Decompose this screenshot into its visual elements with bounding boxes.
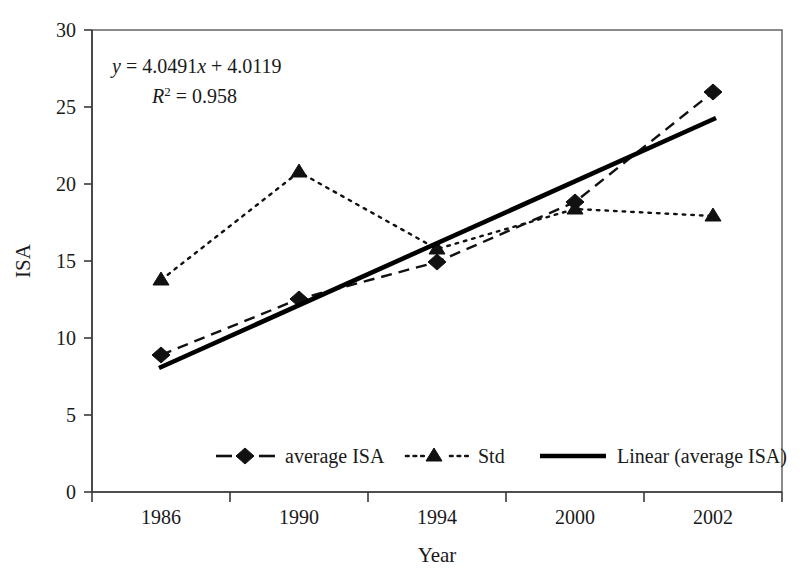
y-axis-title: ISA — [11, 243, 35, 278]
x-tick-label-1990: 1990 — [279, 506, 319, 528]
y-tick-label-10: 10 — [56, 327, 76, 349]
y-tick-label-15: 15 — [56, 250, 76, 272]
y-tick-label-5: 5 — [66, 404, 76, 426]
y-tick-label-20: 20 — [56, 173, 76, 195]
equation-body: = 4.0491 — [121, 55, 197, 77]
x-axis-title: Year — [418, 543, 457, 567]
legend-label-std: Std — [478, 445, 505, 467]
r-squared-symbol: R — [151, 85, 164, 107]
x-tick-label-1986: 1986 — [141, 506, 181, 528]
equation-line: y = 4.0491x + 4.0119 — [110, 55, 282, 78]
isa-trend-line-chart: 0 5 10 15 20 25 30 ISA 1986 1990 1994 20… — [0, 0, 808, 586]
equation-suffix: + 4.0119 — [206, 55, 282, 77]
y-tick-label-30: 30 — [56, 19, 76, 41]
equation-x-symbol: x — [196, 55, 206, 77]
chart-background — [0, 0, 808, 586]
x-tick-label-2000: 2000 — [555, 506, 595, 528]
y-tick-label-0: 0 — [66, 481, 76, 503]
x-tick-label-1994: 1994 — [417, 506, 457, 528]
chart-legend: average ISA Std Linear (average ISA) — [216, 445, 787, 468]
legend-label-linear-average-isa: Linear (average ISA) — [617, 445, 787, 468]
r-squared-value: = 0.958 — [171, 85, 237, 107]
r-squared-line: R2 = 0.958 — [151, 84, 237, 107]
chart-container: 0 5 10 15 20 25 30 ISA 1986 1990 1994 20… — [0, 0, 808, 586]
equation-y-symbol: y — [110, 55, 121, 78]
x-tick-label-2002: 2002 — [693, 506, 733, 528]
legend-label-average-isa: average ISA — [285, 445, 385, 468]
y-tick-label-25: 25 — [56, 96, 76, 118]
